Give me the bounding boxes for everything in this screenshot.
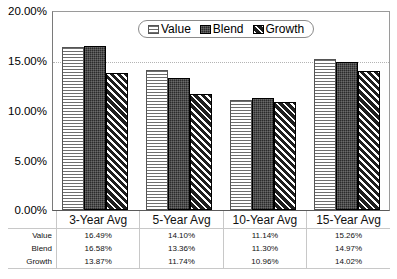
bar-group [305,12,389,210]
bar-blend[interactable] [252,98,274,210]
table-row: Growth 13.87% 11.74% 10.96% 14.02% [8,255,390,269]
bar-chart: 20.00% 15.00% 10.00% 5.00% 0.00% [0,0,397,279]
legend-label: Blend [213,23,244,35]
y-tick-label: 10.00% [8,106,47,118]
table-corner [8,211,57,229]
table-cell: 11.14% [223,229,306,243]
table-row: Blend 16.58% 13.36% 11.30% 14.97% [8,242,390,255]
row-label: Blend [8,242,57,255]
bar-growth[interactable] [358,71,380,210]
table-cell: 13.36% [140,242,223,255]
bar-blend[interactable] [336,62,358,210]
y-axis: 20.00% 15.00% 10.00% 5.00% 0.00% [0,0,50,216]
bar-blend[interactable] [168,78,190,210]
bar-groups [53,12,389,210]
bar-value[interactable] [146,70,168,210]
table-cell: 16.58% [57,242,140,255]
row-label: Growth [8,255,57,269]
bar-growth[interactable] [106,73,128,210]
bar-value[interactable] [230,100,252,210]
legend-item-growth[interactable]: Growth [253,23,305,35]
column-header: 3-Year Avg [57,211,140,229]
table-header-row: 3-Year Avg 5-Year Avg 10-Year Avg 15-Yea… [8,211,390,229]
y-tick-label: 5.00% [14,156,47,168]
legend-item-blend[interactable]: Blend [200,23,244,35]
bar-growth[interactable] [274,102,296,211]
bar-group [53,12,137,210]
table-cell: 14.02% [307,255,390,269]
y-tick-label: 20.00% [8,6,47,18]
bar-group [221,12,305,210]
solid-dark-swatch-icon [200,25,211,34]
diagonal-hatch-swatch-icon [253,25,264,34]
horizontal-lines-swatch-icon [148,25,159,34]
legend-label: Value [161,23,191,35]
table-cell: 13.87% [57,255,140,269]
bar-value[interactable] [314,59,336,210]
bar-group [137,12,221,210]
row-label: Value [8,229,57,243]
bar-growth[interactable] [190,94,212,210]
table-cell: 10.96% [223,255,306,269]
legend-label: Growth [266,23,305,35]
column-header: 15-Year Avg [307,211,390,229]
table-cell: 15.26% [307,229,390,243]
bar-value[interactable] [62,47,84,210]
table-row: Value 16.49% 14.10% 11.14% 15.26% [8,229,390,243]
legend-item-value[interactable]: Value [148,23,191,35]
column-header: 10-Year Avg [223,211,306,229]
table-cell: 14.10% [140,229,223,243]
table-cell: 11.30% [223,242,306,255]
table-cell: 11.74% [140,255,223,269]
table-cell: 14.97% [307,242,390,255]
chart-legend[interactable]: Value Blend Growth [138,20,314,38]
plot-area [52,11,390,211]
column-header: 5-Year Avg [140,211,223,229]
table-cell: 16.49% [57,229,140,243]
data-table: 3-Year Avg 5-Year Avg 10-Year Avg 15-Yea… [8,211,390,269]
y-tick-label: 15.00% [8,56,47,68]
bar-blend[interactable] [84,46,106,210]
